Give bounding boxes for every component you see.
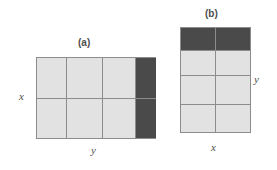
grid-cell (67, 99, 102, 139)
panel-a-grid (36, 57, 156, 139)
figure-canvas: (a) x y (b) y x (0, 0, 277, 170)
panel-b-axis-bottom-label: x (211, 141, 216, 153)
grid-cell (103, 99, 135, 139)
grid-cell (37, 99, 66, 139)
grid-cell (181, 51, 215, 75)
panel-a-axis-bottom-label: y (91, 144, 96, 156)
grid-cell (181, 105, 215, 132)
panel-b-label: (b) (205, 8, 218, 19)
panel-a-axis-left-label: x (19, 90, 24, 102)
grid-cell-highlighted (136, 99, 156, 139)
panel-b-grid (180, 27, 251, 133)
grid-cell (181, 76, 215, 104)
grid-cell (216, 51, 250, 75)
grid-cell (103, 58, 135, 98)
grid-cell-highlighted (216, 28, 250, 50)
grid-cell (37, 58, 66, 98)
grid-cell (67, 58, 102, 98)
panel-b-axis-right-label: y (254, 73, 259, 85)
grid-cell-highlighted (136, 58, 156, 98)
grid-cell (216, 105, 250, 132)
panel-a-label: (a) (78, 37, 90, 48)
grid-cell (216, 76, 250, 104)
grid-cell-highlighted (181, 28, 215, 50)
